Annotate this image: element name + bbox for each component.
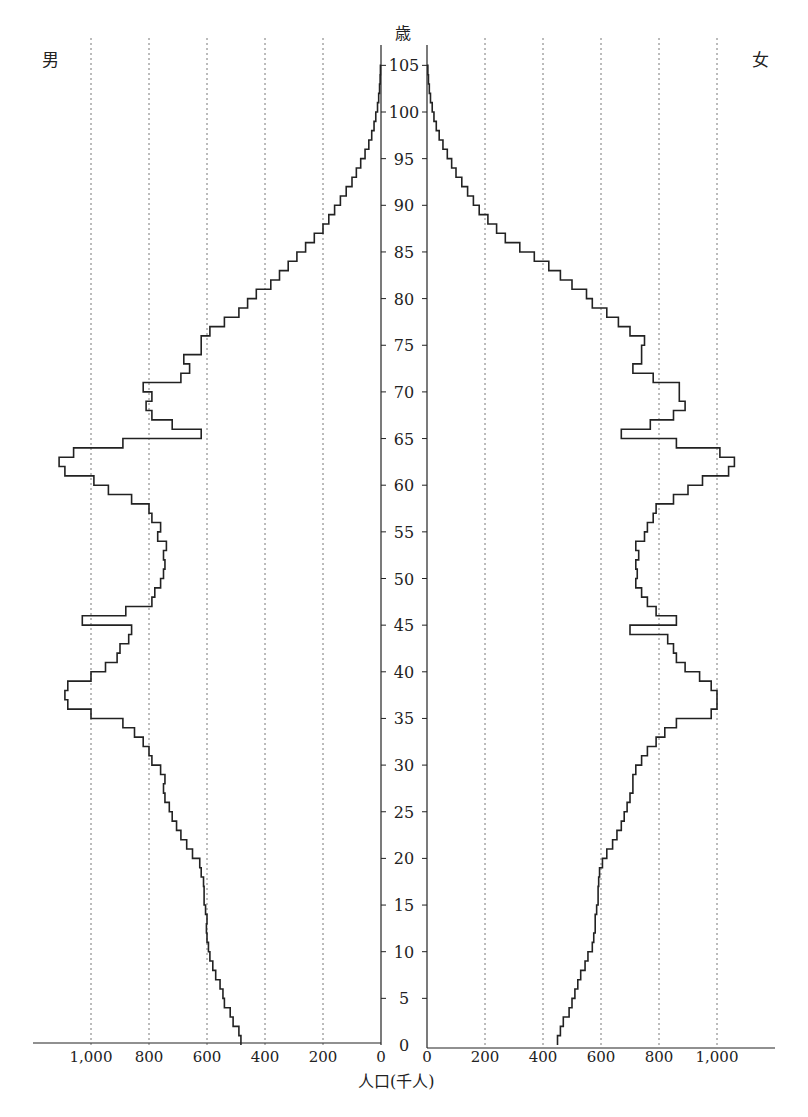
population-pyramid-chart: 0510152025303540455055606570758085909510…	[0, 0, 808, 1117]
age-tick-label: 15	[394, 896, 414, 915]
age-tick-label: 75	[394, 336, 414, 355]
male-label: 男	[42, 46, 59, 71]
x-axis-label: 人口(千人)	[358, 1068, 434, 1092]
x-tick-label-left: 400	[251, 1048, 280, 1066]
age-tick-label: 100	[389, 103, 420, 122]
age-tick-label: 70	[394, 383, 414, 402]
age-tick-label: 85	[394, 243, 414, 262]
age-tick-label: 105	[389, 56, 420, 75]
male-series	[59, 65, 381, 1045]
age-ticks: 0510152025303540455055606570758085909510…	[381, 56, 427, 1055]
age-tick-label: 90	[394, 196, 414, 215]
age-tick-label: 30	[394, 756, 414, 775]
age-tick-label: 25	[394, 803, 414, 822]
age-tick-label: 50	[394, 570, 414, 589]
x-tick-label-left: 800	[135, 1048, 164, 1066]
age-tick-label: 45	[394, 616, 414, 635]
x-tick-label-right: 600	[587, 1048, 616, 1066]
age-tick-label: 35	[394, 709, 414, 728]
age-tick-label: 95	[394, 150, 414, 169]
x-tick-label-right: 200	[471, 1048, 500, 1066]
female-series	[427, 65, 734, 1045]
female-label: 女	[752, 46, 769, 71]
x-tick-label-right: 1,000	[696, 1048, 739, 1066]
x-tick-label-right: 800	[645, 1048, 674, 1066]
age-axis-label: 歳	[395, 20, 411, 44]
age-tick-label: 55	[394, 523, 414, 542]
x-tick-label-left: 0	[376, 1048, 386, 1066]
age-tick-label: 40	[394, 663, 414, 682]
age-tick-label: 65	[394, 430, 414, 449]
age-tick-label: 60	[394, 476, 414, 495]
x-tick-label-left: 200	[309, 1048, 338, 1066]
age-tick-label: 0	[399, 1036, 409, 1055]
x-tick-label-right: 0	[422, 1048, 432, 1066]
x-tick-label-left: 600	[193, 1048, 222, 1066]
x-tick-label-right: 400	[529, 1048, 558, 1066]
age-tick-label: 20	[394, 849, 414, 868]
age-tick-label: 80	[394, 290, 414, 309]
age-tick-label: 10	[394, 943, 414, 962]
age-tick-label: 5	[399, 989, 409, 1008]
x-tick-label-left: 1,000	[70, 1048, 113, 1066]
